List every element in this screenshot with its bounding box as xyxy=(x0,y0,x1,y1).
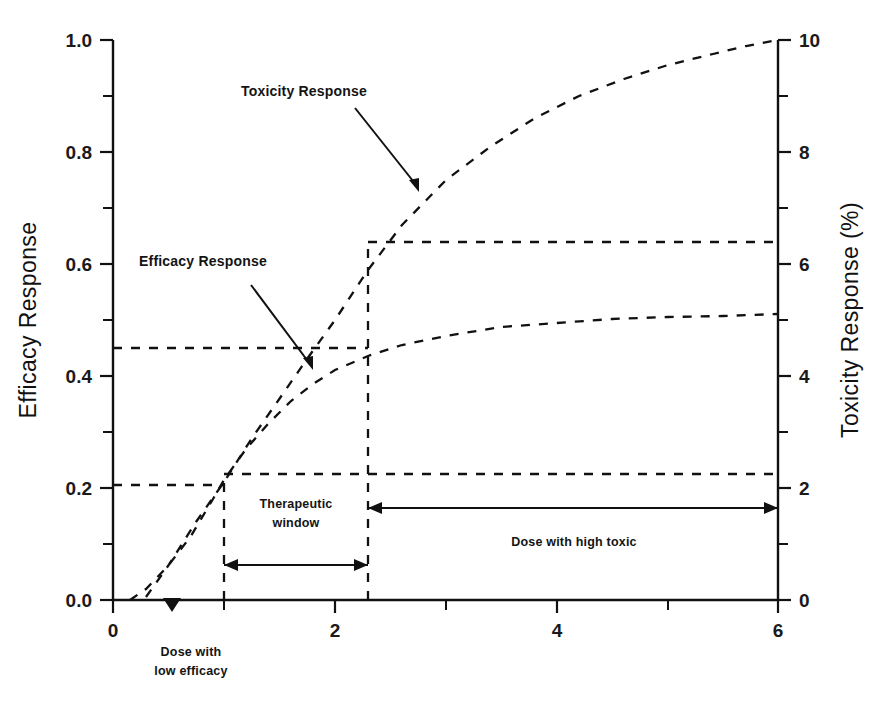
chart-canvas: 1.0 0.8 0.6 0.4 0.2 0.0 10 8 6 4 2 xyxy=(0,0,889,709)
annotation-toxicity-response: Toxicity Response xyxy=(241,83,419,192)
therapeutic-window-label-line1: Therapeutic xyxy=(259,497,332,511)
x-tick-label-4: 4 xyxy=(552,620,563,641)
annotation-dose-high-toxic: Dose with high toxic xyxy=(368,502,778,549)
series-efficacy-response-curve xyxy=(130,314,778,600)
reference-lines xyxy=(113,242,778,600)
toxicity-response-label: Toxicity Response xyxy=(241,83,367,99)
y-axis-left-title: Efficacy Response xyxy=(15,222,41,419)
therapeutic-window-label-line2: window xyxy=(271,516,319,530)
axis-frame xyxy=(113,40,778,600)
toxicity-response-leader-line xyxy=(355,108,417,186)
annotation-dose-low-efficacy: Dose with low efficacy xyxy=(154,645,227,678)
y2-tick-label-4: 4 xyxy=(799,366,810,387)
x-axis-tick-labels: 0 2 4 6 xyxy=(108,620,784,641)
x-tick-label-0: 0 xyxy=(108,620,119,641)
y2-tick-label-6: 6 xyxy=(799,254,810,275)
annotation-therapeutic-window: Therapeutic window xyxy=(224,497,368,571)
y-axis-right-ticks xyxy=(778,40,791,600)
y2-tick-label-0: 0 xyxy=(799,590,810,611)
efficacy-response-arrowhead xyxy=(303,356,313,370)
y-axis-left-tick-labels: 1.0 0.8 0.6 0.4 0.2 0.0 xyxy=(66,30,93,611)
efficacy-response-leader-line xyxy=(251,285,310,364)
therapeutic-window-span-arrow-right xyxy=(354,559,368,571)
dose-high-toxic-label: Dose with high toxic xyxy=(511,535,637,549)
dose-low-efficacy-label-line1: Dose with xyxy=(161,645,222,659)
axis-origin-marker xyxy=(163,598,181,612)
series-toxicity-response-curve xyxy=(146,40,778,597)
y-tick-label-0-6: 0.6 xyxy=(66,254,92,275)
dose-high-toxic-span-arrow-left xyxy=(368,502,382,514)
y2-tick-label-2: 2 xyxy=(799,478,810,499)
chart-figure: 1.0 0.8 0.6 0.4 0.2 0.0 10 8 6 4 2 xyxy=(0,0,889,709)
data-series xyxy=(130,40,778,600)
dose-low-efficacy-label-line2: low efficacy xyxy=(154,664,227,678)
y-tick-label-0-4: 0.4 xyxy=(66,366,93,387)
x-tick-label-6: 6 xyxy=(773,620,784,641)
y-tick-label-0-8: 0.8 xyxy=(66,142,92,163)
toxicity-response-arrowhead xyxy=(409,178,419,192)
y-axis-right-tick-labels: 10 8 6 4 2 0 xyxy=(799,30,820,611)
efficacy-response-label: Efficacy Response xyxy=(139,253,267,269)
y2-tick-label-8: 8 xyxy=(799,142,810,163)
y-tick-label-0-0: 0.0 xyxy=(66,590,92,611)
x-axis-ticks xyxy=(113,600,778,613)
x-tick-label-2: 2 xyxy=(330,620,341,641)
y2-tick-label-10: 10 xyxy=(799,30,820,51)
y-tick-label-1-0: 1.0 xyxy=(66,30,92,51)
y-axis-right-title: Toxicity Response (%) xyxy=(837,202,863,438)
therapeutic-window-span-arrow-left xyxy=(224,559,238,571)
y-axis-left-ticks xyxy=(100,40,113,600)
annotation-efficacy-response: Efficacy Response xyxy=(139,253,313,370)
dose-high-toxic-span-arrow-right xyxy=(764,502,778,514)
y-tick-label-0-2: 0.2 xyxy=(66,478,92,499)
